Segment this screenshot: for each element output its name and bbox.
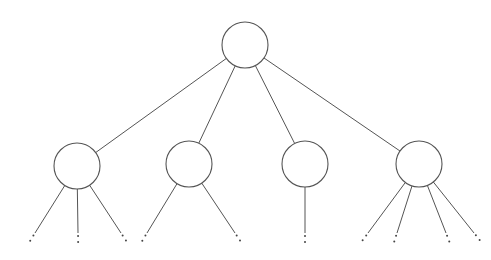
- continuation-dot: [475, 234, 477, 236]
- tree-node-child-4: [396, 141, 442, 187]
- edge-child-1-to-leaf: [90, 185, 121, 233]
- continuation-dot: [77, 235, 79, 237]
- continuation-dot: [446, 235, 448, 237]
- edge-child-4-to-leaf: [427, 185, 446, 233]
- tree-diagram: [0, 0, 491, 260]
- edges-layer: [96, 58, 400, 153]
- leaf-edges-layer: [35, 182, 474, 233]
- nodes-layer: [54, 22, 442, 189]
- edge-child-1-to-leaf: [77, 189, 78, 233]
- edge-child-4-to-leaf: [433, 182, 474, 233]
- edge-root-to-child-3: [255, 66, 294, 144]
- continuation-dot: [122, 235, 124, 237]
- edge-child-2-to-leaf: [147, 184, 177, 233]
- continuation-dot: [362, 239, 364, 241]
- continuation-dot: [141, 240, 143, 242]
- tree-node-child-1: [54, 143, 100, 189]
- edge-child-2-to-leaf: [202, 183, 235, 233]
- edge-root-to-child-4: [264, 58, 400, 151]
- edge-root-to-child-2: [199, 66, 235, 143]
- continuation-dot: [77, 241, 79, 243]
- continuation-dot: [239, 239, 241, 241]
- continuation-dot: [479, 239, 481, 241]
- tree-node-root: [222, 22, 268, 68]
- continuation-dots-layer: [29, 234, 480, 243]
- tree-node-child-2: [166, 141, 212, 187]
- continuation-dot: [304, 235, 306, 237]
- continuation-dot: [448, 240, 450, 242]
- continuation-dot: [304, 241, 306, 243]
- continuation-dot: [29, 240, 31, 242]
- continuation-dot: [236, 234, 238, 236]
- continuation-dot: [125, 240, 127, 242]
- edge-root-to-child-1: [96, 58, 227, 152]
- tree-node-child-3: [282, 141, 328, 187]
- continuation-dot: [32, 235, 34, 237]
- continuation-dot: [365, 234, 367, 236]
- continuation-dot: [395, 235, 397, 237]
- continuation-dot: [393, 241, 395, 243]
- continuation-dot: [144, 235, 146, 237]
- edge-child-1-to-leaf: [35, 185, 65, 233]
- edge-child-4-to-leaf: [397, 186, 412, 233]
